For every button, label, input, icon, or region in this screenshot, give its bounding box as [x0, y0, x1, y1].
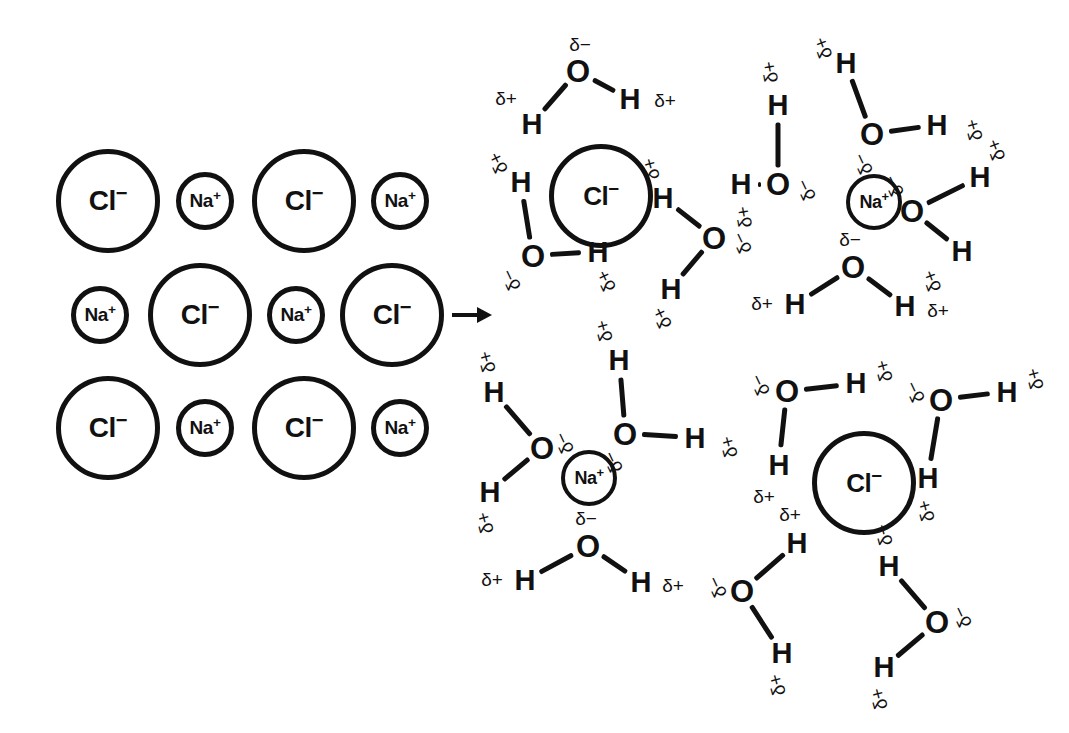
covalent-bond [958, 392, 991, 401]
partial-positive-charge-label: δ+ [481, 570, 503, 589]
partial-negative-charge-label: δ− [747, 371, 773, 399]
partial-positive-charge-label: δ+ [473, 510, 497, 536]
hydrogen-atom: H [927, 111, 948, 140]
ion-label: Cl− [285, 412, 323, 444]
partial-positive-charge-label: δ+ [927, 301, 949, 320]
covalent-bond [592, 77, 616, 93]
ion-charge: − [608, 178, 618, 199]
ion-label: Cl− [373, 299, 411, 331]
hydrogen-atom: H [846, 369, 867, 398]
hydrogen-atom: H [515, 566, 536, 595]
covalent-bond [550, 251, 581, 258]
hydrogen-atom: H [731, 170, 752, 199]
hydrogen-atom: H [918, 464, 939, 493]
covalent-bond [895, 631, 925, 658]
partial-negative-charge-label: δ− [575, 509, 597, 528]
oxygen-atom: O [730, 576, 754, 607]
ion-charge: + [304, 302, 311, 317]
hydrogen-atom: H [609, 346, 630, 375]
ion-charge: − [312, 409, 323, 431]
partial-negative-charge-label: δ− [839, 230, 861, 249]
hydrogen-atom: H [511, 168, 532, 197]
covalent-bond [924, 220, 951, 243]
ion-label: Na+ [385, 190, 416, 212]
covalent-bond [753, 552, 786, 581]
ion-charge: + [596, 465, 603, 480]
covalent-bond [849, 78, 868, 119]
partial-positive-charge-label: δ+ [759, 60, 781, 85]
partial-positive-charge-label: δ+ [914, 498, 938, 524]
chloride-ion: Cl− [56, 149, 160, 253]
ion-label: Cl− [285, 185, 323, 217]
partial-negative-charge-label: δ− [729, 229, 755, 257]
hydrogen-atom: H [874, 653, 895, 682]
partial-positive-charge-label: δ+ [717, 434, 741, 460]
partial-positive-charge-label: δ+ [639, 156, 663, 182]
oxygen-atom: O [521, 241, 545, 272]
ion-charge: − [400, 296, 411, 318]
oxygen-atom: O [929, 385, 953, 416]
covalent-bond [501, 457, 530, 483]
oxygen-atom: O [900, 196, 924, 227]
partial-positive-charge-label: δ+ [810, 35, 835, 62]
covalent-bond [642, 432, 678, 439]
chloride-ion: Cl− [252, 376, 356, 480]
hydrogen-atom: H [620, 85, 641, 114]
partial-positive-charge-label: δ+ [649, 304, 675, 332]
hydrogen-atom: H [997, 378, 1018, 407]
chloride-ion: Cl− [56, 376, 160, 480]
oxygen-atom: O [775, 376, 799, 407]
partial-negative-charge-label: δ− [793, 176, 819, 204]
covalent-bond [898, 577, 928, 610]
sodium-ion: Na+ [371, 399, 429, 457]
covalent-bond [808, 274, 840, 297]
hydrogen-atom: H [588, 238, 609, 267]
covalent-bond [539, 552, 574, 574]
ion-charge: + [213, 415, 220, 430]
ion-charge: + [213, 188, 220, 203]
ion-label: Na+ [385, 417, 416, 439]
partial-positive-charge-label: δ+ [592, 318, 616, 344]
hydrogen-atom: H [661, 275, 682, 304]
dissolution-diagram: Cl−Na+Cl−Na+Na+Cl−Na+Cl−Cl−Na+Cl−Na+ Cl−… [0, 0, 1069, 733]
sodium-ion: Na+ [176, 172, 234, 230]
covalent-bond [541, 82, 568, 113]
hydrogen-atom: H [772, 639, 793, 668]
process-arrow-icon [452, 306, 492, 324]
oxygen-atom: O [766, 169, 790, 200]
ion-charge: + [408, 415, 415, 430]
oxygen-atom: O [702, 223, 726, 254]
partial-negative-charge-label: δ− [902, 378, 928, 406]
hydrogen-atom: H [631, 568, 652, 597]
covalent-bond [758, 182, 761, 187]
covalent-bond [618, 377, 626, 418]
chloride-ion: Cl− [549, 144, 653, 248]
ion-charge: − [116, 409, 127, 431]
partial-positive-charge-label: δ+ [495, 89, 517, 108]
ion-label: Cl− [181, 299, 219, 331]
sodium-ion: Na+ [71, 286, 129, 344]
partial-negative-charge-label: δ− [949, 603, 975, 631]
covalent-bond [675, 207, 702, 230]
partial-positive-charge-label: δ+ [753, 487, 775, 506]
hydrogen-atom: H [787, 529, 808, 558]
partial-positive-charge-label: δ+ [983, 137, 1008, 164]
ion-label: Na+ [859, 192, 888, 213]
ion-label: Na+ [190, 417, 221, 439]
partial-positive-charge-label: δ+ [765, 672, 789, 698]
chloride-ion: Cl− [148, 263, 252, 367]
partial-positive-charge-label: δ+ [662, 576, 684, 595]
sodium-ion: Na+ [267, 286, 325, 344]
hydrogen-atom: H [879, 552, 900, 581]
oxygen-atom: O [613, 419, 637, 450]
covalent-bond [503, 403, 533, 436]
covalent-bond [521, 198, 532, 239]
chloride-ion: Cl− [252, 149, 356, 253]
ion-charge: + [108, 302, 115, 317]
hydrogen-atom: H [836, 49, 857, 78]
ion-charge: − [871, 465, 881, 486]
chloride-ion: Cl− [340, 263, 444, 367]
ion-label: Na+ [281, 304, 312, 326]
ion-label: Na+ [85, 304, 116, 326]
covalent-bond [804, 382, 840, 391]
